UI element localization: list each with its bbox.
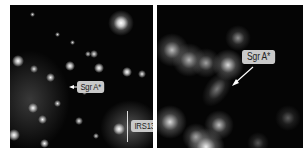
irs13-label: IRS13 — [131, 120, 153, 132]
right-image-panel: Sgr A* — [157, 5, 303, 148]
left-image-panel: Sgr A* IRS13 — [10, 5, 153, 148]
sgr-a-arrow-right — [157, 5, 303, 148]
sgr-a-label-right: Sgr A* — [242, 50, 275, 64]
sgr-a-label-left: Sgr A* — [77, 81, 104, 93]
irs13-bracket — [127, 111, 128, 142]
